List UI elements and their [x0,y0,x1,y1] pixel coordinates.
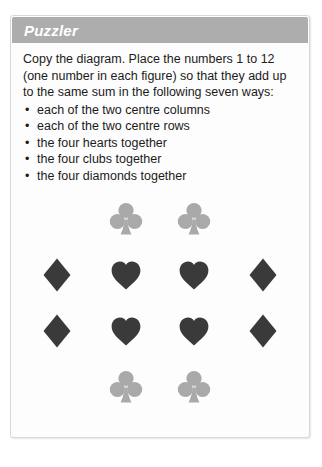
list-item: • the four hearts together [23,135,297,152]
puzzle-diagram [23,194,297,416]
club-icon [177,369,211,405]
club-icon [109,201,143,237]
list-item: • each of the two centre rows [23,118,297,135]
list-item: • each of the two centre columns [23,102,297,119]
list-item: • the four clubs together [23,151,297,168]
diamond-icon [42,257,72,293]
diamond-icon [248,257,278,293]
bullet-icon: • [25,168,29,185]
card-header-title: Puzzler [24,22,78,39]
list-item: • the four diamonds together [23,168,297,185]
club-icon [109,369,143,405]
heart-icon [110,315,142,347]
diamond-icon [248,313,278,349]
list-item-label: the four hearts together [37,136,167,150]
diagram-cell-empty [23,194,92,244]
diagram-cell-empty [229,362,298,412]
diagram-cell-club [92,194,161,244]
puzzler-card: Puzzler Copy the diagram. Place the numb… [10,15,310,438]
list-item-label: the four diamonds together [37,169,186,183]
diagram-cell-heart [92,250,161,300]
bullet-icon: • [25,102,29,119]
diagram-cell-club [160,362,229,412]
diagram-cell-heart [160,306,229,356]
list-item-label: each of the two centre rows [37,119,190,133]
diagram-cell-diamond [23,306,92,356]
bullet-icon: • [25,135,29,152]
diamond-icon [42,313,72,349]
diagram-cell-heart [160,250,229,300]
diagram-cell-empty [23,362,92,412]
diagram-cell-diamond [229,250,298,300]
diagram-cell-diamond [229,306,298,356]
diagram-cell-diamond [23,250,92,300]
card-header: Puzzler [12,17,308,43]
heart-icon [110,259,142,291]
diagram-cell-club [92,362,161,412]
diagram-row [23,194,297,244]
diagram-row [23,362,297,412]
bullet-icon: • [25,151,29,168]
club-icon [177,201,211,237]
bullet-icon: • [25,118,29,135]
heart-icon [178,315,210,347]
diagram-row [23,250,297,300]
diagram-cell-club [160,194,229,244]
puzzle-instructions: Copy the diagram. Place the numbers 1 to… [23,51,297,101]
diagram-cell-heart [92,306,161,356]
condition-list: • each of the two centre columns • each … [23,102,297,185]
card-body: Copy the diagram. Place the numbers 1 to… [11,43,309,437]
diagram-row [23,306,297,356]
diagram-cell-empty [229,194,298,244]
list-item-label: each of the two centre columns [37,103,210,117]
list-item-label: the four clubs together [37,152,161,166]
heart-icon [178,259,210,291]
